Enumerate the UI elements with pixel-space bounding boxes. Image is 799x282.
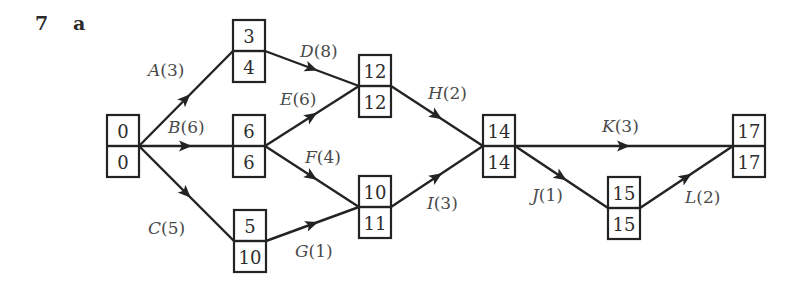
late-time: 17 bbox=[738, 152, 761, 173]
event-node: 66 bbox=[233, 115, 265, 177]
early-time: 0 bbox=[117, 121, 128, 142]
edge-label-k: K(3) bbox=[601, 116, 639, 136]
edge-label-c: C(5) bbox=[148, 218, 185, 238]
arrow-head-icon bbox=[304, 217, 320, 232]
activity-letter: L bbox=[684, 187, 696, 207]
activity-duration: (8) bbox=[314, 41, 338, 61]
activity-letter: E bbox=[279, 89, 293, 109]
arrow-head-icon bbox=[428, 169, 445, 185]
activity-duration: (3) bbox=[160, 60, 184, 80]
activity-duration: (1) bbox=[539, 185, 563, 205]
late-time: 4 bbox=[243, 57, 254, 78]
activity-duration: (2) bbox=[696, 187, 720, 207]
arrow-head-icon bbox=[303, 168, 320, 184]
arrow-head-icon bbox=[304, 61, 320, 76]
activity-duration: (3) bbox=[434, 193, 458, 213]
late-time: 6 bbox=[243, 152, 254, 173]
activity-letter: G bbox=[295, 241, 309, 261]
event-node: 1414 bbox=[483, 115, 515, 177]
event-node: 510 bbox=[234, 210, 266, 272]
early-time: 6 bbox=[243, 121, 254, 142]
late-time: 15 bbox=[613, 214, 636, 235]
activity-letter: D bbox=[299, 41, 314, 61]
arrow-head-icon bbox=[428, 108, 445, 124]
event-node: 00 bbox=[107, 115, 139, 177]
early-time: 17 bbox=[738, 121, 761, 142]
early-time: 14 bbox=[488, 121, 511, 142]
edge-label-h: H(2) bbox=[427, 83, 467, 103]
edge-label-g: G(1) bbox=[295, 241, 333, 261]
activity-duration: (6) bbox=[292, 89, 316, 109]
edge-b bbox=[139, 141, 233, 152]
arrow-head-icon bbox=[303, 108, 320, 124]
activity-duration: (3) bbox=[615, 116, 639, 136]
activity-letter: B bbox=[167, 117, 181, 137]
edge-label-d: D(8) bbox=[299, 41, 338, 61]
late-time: 11 bbox=[364, 213, 387, 234]
edge-g bbox=[266, 207, 359, 241]
edge-label-l: L(2) bbox=[684, 187, 720, 207]
activity-duration: (6) bbox=[181, 117, 205, 137]
edge-label-i: I(3) bbox=[426, 193, 458, 213]
activity-letter: H bbox=[427, 83, 444, 103]
event-node: 1515 bbox=[608, 177, 640, 239]
edge-k bbox=[515, 141, 733, 152]
early-time: 10 bbox=[364, 182, 387, 203]
edge-label-j: J(1) bbox=[529, 185, 563, 205]
early-time: 12 bbox=[364, 61, 387, 82]
event-node: 1717 bbox=[733, 115, 765, 177]
activity-letter: C bbox=[148, 218, 161, 238]
edge-label-f: F(4) bbox=[304, 147, 341, 167]
event-node: 1011 bbox=[359, 176, 391, 238]
late-time: 0 bbox=[117, 152, 128, 173]
arrow-head-icon bbox=[678, 169, 695, 185]
activity-duration: (2) bbox=[443, 83, 467, 103]
late-time: 10 bbox=[239, 247, 262, 268]
edge-label-b: B(6) bbox=[167, 117, 205, 137]
activity-letter: A bbox=[146, 60, 160, 80]
late-time: 14 bbox=[488, 152, 511, 173]
event-node: 1212 bbox=[359, 55, 391, 117]
late-time: 12 bbox=[364, 92, 387, 113]
activity-network-diagram: 00346651012121011141415151717 A(3)B(6)C(… bbox=[0, 0, 799, 282]
early-time: 3 bbox=[243, 26, 254, 47]
activity-duration: (1) bbox=[309, 241, 333, 261]
arrow-head-icon bbox=[553, 169, 570, 185]
early-time: 5 bbox=[244, 216, 255, 237]
early-time: 15 bbox=[613, 183, 636, 204]
activity-duration: (5) bbox=[161, 218, 185, 238]
event-node: 34 bbox=[233, 20, 265, 82]
edge-label-e: E(6) bbox=[279, 89, 317, 109]
activity-duration: (4) bbox=[317, 147, 341, 167]
edge-label-a: A(3) bbox=[146, 60, 184, 80]
